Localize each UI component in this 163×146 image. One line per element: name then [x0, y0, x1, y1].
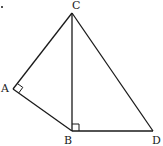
label-c: C	[72, 0, 80, 12]
label-b: B	[64, 134, 72, 146]
segment-ca	[13, 13, 72, 89]
right-angle-marker-b	[72, 124, 79, 131]
right-angle-marker-a	[17, 84, 23, 93]
stray-dot	[1, 6, 3, 8]
geometry-diagram: C A B D	[0, 0, 163, 146]
segment-ab	[13, 89, 72, 131]
label-d: D	[152, 134, 161, 146]
segment-cd	[72, 13, 153, 131]
label-a: A	[0, 82, 10, 95]
